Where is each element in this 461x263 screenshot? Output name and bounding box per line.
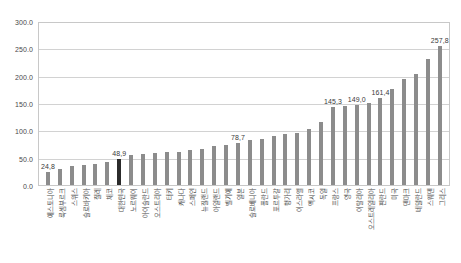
y-axis-tick-label: 250.0 — [15, 46, 33, 53]
bar — [319, 122, 323, 185]
bar — [260, 139, 264, 185]
bar-slot — [268, 23, 280, 185]
bar-slot — [149, 23, 161, 185]
bar-value-label: 24,8 — [41, 163, 55, 170]
x-axis: 에스토니아룩셈부르크스위스슬로바키아칠레체코대한민국노르웨이아이슬란드오스트리아… — [39, 188, 449, 260]
bar — [236, 143, 240, 185]
bar-chart: 300.0250.0200.0150.0100.050.00.0 24,848,… — [0, 0, 461, 263]
y-axis-tick-label: 50.0 — [19, 155, 33, 162]
bar-slot — [66, 23, 78, 185]
bar-slot — [244, 23, 256, 185]
bar — [141, 154, 145, 185]
x-axis-label-slot: 룩셈부르크 — [54, 188, 66, 260]
x-axis-label-slot: 뉴질랜드 — [196, 188, 208, 260]
bar-slot — [339, 23, 351, 185]
x-axis-label-slot: 슬로베니아 — [244, 188, 256, 260]
bar-slot — [173, 23, 185, 185]
x-axis-label-slot: 폴란드 — [256, 188, 268, 260]
x-axis-label-slot: 스위스 — [66, 188, 78, 260]
x-axis-label-slot: 터키 — [161, 188, 173, 260]
bar-slot — [78, 23, 90, 185]
bar — [200, 149, 204, 185]
x-axis-label-slot: 이스라엘 — [291, 188, 303, 260]
bar — [248, 140, 252, 185]
bar — [82, 165, 86, 185]
bar-slot — [386, 23, 398, 185]
y-axis-tick-label: 150.0 — [15, 101, 33, 108]
bar — [93, 164, 97, 185]
bar-slot: 145,3 — [327, 23, 339, 185]
x-axis-label-slot: 핀란드 — [375, 188, 387, 260]
bar — [390, 89, 394, 185]
bar-slot: 161,4 — [375, 23, 387, 185]
bar — [212, 146, 216, 185]
bar — [295, 133, 299, 185]
y-axis-tick-label: 0.0 — [23, 183, 33, 190]
bar-slot: 78,7 — [232, 23, 244, 185]
x-axis-label-slot: 스웨덴 — [422, 188, 434, 260]
bar — [177, 152, 181, 185]
bar-slot — [196, 23, 208, 185]
bar-slot — [422, 23, 434, 185]
bar — [70, 166, 74, 185]
bar-slot — [220, 23, 232, 185]
bar-slot — [125, 23, 137, 185]
bar — [378, 98, 382, 185]
x-axis-label-slot: 캐나다 — [173, 188, 185, 260]
bar — [117, 159, 121, 185]
bar — [438, 46, 442, 185]
bar-slot — [291, 23, 303, 185]
bar-slot: 149,0 — [351, 23, 363, 185]
x-axis-label-slot: 오스트레일리아 — [363, 188, 375, 260]
bar — [105, 162, 109, 185]
x-axis-label-slot: 노르웨이 — [125, 188, 137, 260]
bar — [367, 103, 371, 185]
x-axis-label-slot: 일본 — [232, 188, 244, 260]
bar-slot: 48,9 — [113, 23, 125, 185]
bar — [46, 172, 50, 185]
x-axis-label-slot: 네덜란드 — [410, 188, 422, 260]
x-axis-label-slot: 헝가리 — [280, 188, 292, 260]
x-axis-label-slot: 이탈리아 — [351, 188, 363, 260]
y-axis: 300.0250.0200.0150.0100.050.00.0 — [0, 22, 36, 186]
y-axis-tick-label: 300.0 — [15, 19, 33, 26]
x-axis-label-slot: 스페인 — [185, 188, 197, 260]
bar — [343, 106, 347, 185]
bar-slot — [101, 23, 113, 185]
x-axis-tick-label: 그리스 — [440, 188, 447, 206]
bar — [307, 129, 311, 185]
bar-slot — [256, 23, 268, 185]
bar-slot — [137, 23, 149, 185]
x-axis-label-slot: 독일 — [315, 188, 327, 260]
bar-slot — [161, 23, 173, 185]
bar-slot — [90, 23, 102, 185]
x-axis-label-slot: 오스트리아 — [149, 188, 161, 260]
x-axis-label-slot: 벨기에 — [220, 188, 232, 260]
bar — [283, 134, 287, 185]
bar — [272, 136, 276, 185]
bar — [414, 74, 418, 185]
bar-slot — [363, 23, 375, 185]
bar — [58, 169, 62, 185]
x-axis-label-slot: 멕시코 — [303, 188, 315, 260]
bar-slot — [398, 23, 410, 185]
x-axis-label-slot: 영국 — [339, 188, 351, 260]
x-axis-label-slot: 에스토니아 — [42, 188, 54, 260]
x-axis-label-slot: 칠레 — [90, 188, 102, 260]
y-axis-tick-label: 100.0 — [15, 128, 33, 135]
bar — [402, 79, 406, 185]
bar — [355, 105, 359, 185]
bar-series: 24,848,978,7145,3149,0161,4257,8 — [39, 23, 449, 185]
x-axis-label-slot: 포르투갈 — [268, 188, 280, 260]
bar — [331, 107, 335, 185]
x-axis-label-slot: 아이슬란드 — [137, 188, 149, 260]
x-axis-label-slot: 슬로바키아 — [78, 188, 90, 260]
bar-slot — [303, 23, 315, 185]
x-axis-label-slot: 그리스 — [434, 188, 446, 260]
bar-slot — [280, 23, 292, 185]
bar — [224, 145, 228, 185]
x-axis-label-slot: 덴마크 — [398, 188, 410, 260]
bar-slot — [208, 23, 220, 185]
bar-value-label: 48,9 — [112, 150, 126, 157]
x-axis-label-slot: 대한민국 — [113, 188, 125, 260]
